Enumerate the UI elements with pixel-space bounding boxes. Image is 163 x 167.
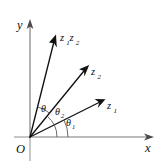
vector-z2-label-subscript: 2 bbox=[98, 73, 102, 81]
angle-theta2-symbol: θ bbox=[55, 106, 60, 117]
vector-z1z2-label-main-second: z bbox=[69, 32, 74, 43]
angle-theta2-subscript: 2 bbox=[61, 112, 65, 119]
complex-plane-diagram: y x O z 1 z 2 z 1 z 2 bbox=[0, 0, 163, 167]
angle-theta-symbol: θ bbox=[41, 103, 46, 114]
vector-z1z2-label: z 1 z 2 bbox=[59, 32, 80, 46]
vector-z1-label-subscript: 1 bbox=[114, 107, 118, 115]
angle-theta1-symbol: θ bbox=[66, 117, 71, 128]
vector-z1z2-label-subscript-second: 2 bbox=[76, 39, 80, 47]
origin-label: O bbox=[16, 142, 25, 156]
vector-z2-label-main: z bbox=[90, 66, 95, 77]
angle-theta-label: θ bbox=[41, 103, 46, 114]
angle-theta2-label: θ 2 bbox=[55, 106, 65, 119]
figure-container: y x O z 1 z 2 z 1 z 2 bbox=[0, 0, 163, 167]
x-axis-label: x bbox=[144, 141, 151, 155]
y-axis-label: y bbox=[15, 18, 23, 32]
axes-group bbox=[14, 19, 154, 161]
labels-group: y x O z 1 z 2 z 1 z 2 bbox=[15, 18, 151, 156]
vector-z2-label: z 2 bbox=[90, 66, 102, 80]
vector-z1-label: z 1 bbox=[106, 100, 117, 114]
angle-theta1-subscript: 1 bbox=[72, 123, 75, 130]
vector-z1z2-label-main-first: z bbox=[59, 32, 64, 43]
vector-z1-label-main: z bbox=[106, 100, 111, 111]
